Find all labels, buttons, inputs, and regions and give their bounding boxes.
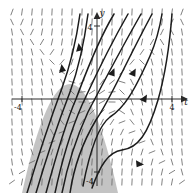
slope-mark <box>22 129 23 136</box>
slope-mark <box>112 159 113 166</box>
slope-mark <box>99 100 105 103</box>
slope-mark <box>122 29 123 36</box>
slope-mark <box>182 139 183 146</box>
slope-mark <box>22 49 23 56</box>
slope-mark <box>161 149 163 156</box>
slope-mark <box>152 169 153 176</box>
slope-mark <box>21 159 23 166</box>
slope-mark <box>61 49 63 56</box>
slope-mark <box>72 39 73 46</box>
slope-mark <box>70 70 75 75</box>
slope-mark <box>92 159 93 166</box>
slope-mark <box>141 119 143 126</box>
slope-mark <box>32 109 33 116</box>
slope-mark <box>159 160 165 163</box>
slope-mark <box>119 110 125 114</box>
arrowhead-1 <box>58 64 66 73</box>
slope-mark <box>151 29 152 36</box>
slope-mark <box>60 59 65 64</box>
slope-mark <box>171 179 172 186</box>
slope-mark <box>182 159 183 166</box>
slope-mark <box>162 179 163 186</box>
slope-mark <box>131 149 132 156</box>
slope-mark <box>172 79 173 86</box>
slope-mark <box>41 59 43 66</box>
slope-mark <box>31 139 32 146</box>
slope-mark <box>42 79 43 86</box>
slope-mark <box>131 39 132 46</box>
slope-mark <box>161 169 163 176</box>
slope-mark <box>92 39 93 46</box>
slope-mark <box>10 19 13 25</box>
slope-mark <box>89 90 95 94</box>
slope-mark <box>21 39 22 46</box>
slope-mark <box>151 159 153 166</box>
slope-mark <box>131 109 134 115</box>
slope-mark <box>22 119 23 126</box>
slope-mark <box>12 39 13 46</box>
slope-mark <box>181 9 183 16</box>
slope-mark <box>119 121 126 124</box>
slope-mark <box>32 129 33 136</box>
slope-mark <box>151 129 152 136</box>
slope-mark <box>151 69 152 76</box>
slope-mark <box>171 159 173 166</box>
slope-mark <box>169 170 175 174</box>
slope-mark <box>52 19 53 26</box>
slope-mark <box>120 90 125 95</box>
slope-mark <box>31 49 32 56</box>
slope-mark <box>12 49 13 56</box>
slope-mark <box>82 159 83 166</box>
slope-mark <box>32 99 33 106</box>
slope-mark <box>130 79 133 85</box>
slope-mark <box>42 109 43 116</box>
slope-mark <box>132 159 133 166</box>
slope-mark <box>42 19 43 26</box>
slope-mark <box>51 69 53 76</box>
slope-mark <box>162 119 163 126</box>
slope-mark <box>62 29 63 36</box>
slope-mark <box>152 99 153 106</box>
axis-label-t: t <box>184 97 188 107</box>
slope-mark <box>140 129 143 135</box>
slope-mark <box>22 139 23 146</box>
slope-mark <box>32 119 33 126</box>
slope-mark <box>61 39 62 46</box>
slope-mark <box>130 119 134 124</box>
slope-mark <box>91 69 93 76</box>
slope-mark <box>182 49 183 56</box>
slope-mark <box>21 149 22 156</box>
slope-mark <box>162 89 163 96</box>
slope-mark <box>161 139 162 146</box>
slope-mark <box>171 149 172 156</box>
plot-canvas: t y -4 4 4 -4 <box>0 0 194 193</box>
slope-mark <box>162 69 163 76</box>
slope-mark <box>141 109 143 116</box>
slope-mark <box>19 170 25 174</box>
slope-mark <box>160 29 163 35</box>
slope-mark <box>32 89 33 96</box>
slope-mark <box>22 59 23 66</box>
slope-mark <box>102 39 103 46</box>
arrowhead-6 <box>135 160 144 168</box>
slope-mark <box>50 60 55 65</box>
slope-mark <box>161 49 162 56</box>
slope-mark <box>141 89 142 96</box>
slope-mark <box>182 149 183 156</box>
slope-mark <box>141 39 143 46</box>
slope-mark <box>51 89 52 96</box>
slope-mark <box>101 69 103 76</box>
slope-mark <box>31 19 32 26</box>
tick-label-y-negative-4: -4 <box>86 177 94 186</box>
slope-mark <box>172 139 173 146</box>
slope-mark <box>20 29 23 35</box>
slope-mark <box>182 39 183 46</box>
slope-mark <box>109 80 114 84</box>
slope-mark <box>52 29 53 36</box>
arrowhead-4 <box>129 67 139 78</box>
slope-mark <box>151 59 153 66</box>
slope-mark <box>152 109 153 116</box>
slope-mark <box>40 39 44 45</box>
slope-mark <box>152 19 153 26</box>
slope-mark <box>181 169 183 176</box>
